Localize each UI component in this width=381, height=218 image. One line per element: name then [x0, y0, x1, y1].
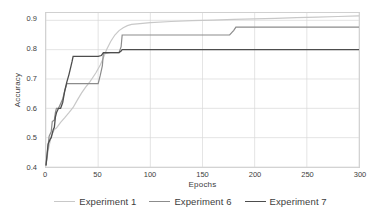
legend-line-swatch	[149, 201, 170, 202]
x-tick-label: 200	[249, 170, 262, 179]
legend-entry-2[interactable]: Experiment 6	[149, 196, 231, 207]
chart-figure: Accuracy 0.40.50.60.70.80.9 050100150200…	[0, 0, 381, 218]
legend-line-swatch	[54, 201, 75, 202]
x-tick-label: 300	[354, 170, 367, 179]
chart-legend: Experiment 1Experiment 6Experiment 7	[0, 196, 381, 207]
x-tick-label: 150	[196, 170, 209, 179]
legend-entry-3[interactable]: Experiment 7	[245, 196, 327, 207]
x-tick-label: 0	[43, 170, 47, 179]
legend-entry-1[interactable]: Experiment 1	[54, 196, 136, 207]
x-tick-label: 50	[93, 170, 101, 179]
legend-label: Experiment 6	[174, 196, 231, 207]
x-axis-label: Epochs	[45, 180, 360, 189]
legend-label: Experiment 1	[79, 196, 136, 207]
x-tick-label: 100	[144, 170, 157, 179]
legend-line-swatch	[245, 201, 266, 202]
legend-label: Experiment 7	[270, 196, 327, 207]
x-tick-label: 250	[301, 170, 314, 179]
